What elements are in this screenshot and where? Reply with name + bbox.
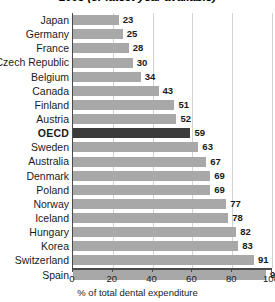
bar-row: Norway77 [0, 197, 275, 211]
bar-row: Hungary82 [0, 225, 275, 239]
bar [73, 199, 226, 209]
bar-row-label: Canada [32, 84, 69, 98]
bar-track: 30 [73, 58, 272, 68]
bar-row-label: Sweden [31, 140, 69, 154]
bar [73, 100, 174, 110]
x-axis-tick-label: 40 [146, 273, 157, 284]
bar-track: 51 [73, 100, 272, 110]
bar [73, 270, 266, 280]
bar-value-label: 78 [228, 212, 243, 224]
bar-row-label: Belgium [31, 70, 69, 84]
bar-row: Korea83 [0, 239, 275, 253]
bar [73, 227, 236, 237]
bar [73, 114, 176, 124]
bar-row: Germany25 [0, 27, 275, 41]
bar [73, 157, 206, 167]
bar-row-label: Czech Republic [0, 55, 69, 69]
bar-row: Austria52 [0, 112, 275, 126]
bar-value-label: 34 [141, 71, 156, 83]
bar-track: 43 [73, 86, 272, 96]
bar-value-label: 77 [226, 198, 241, 210]
bar [73, 43, 129, 53]
bar-value-label: 28 [129, 42, 144, 54]
bar-row: Denmark69 [0, 169, 275, 183]
x-axis-title: % of total dental expenditure [0, 287, 275, 298]
bar-track: 25 [73, 29, 272, 39]
bar-row: Belgium34 [0, 70, 275, 84]
x-axis-tick [112, 268, 113, 272]
bar-row: OECD59 [0, 126, 275, 140]
bar-row: Japan23 [0, 13, 275, 27]
bar [73, 213, 228, 223]
bar-row-label: Germany [26, 27, 69, 41]
bar [73, 72, 141, 82]
bar-track: 78 [73, 213, 272, 223]
bar-track: 52 [73, 114, 272, 124]
bar-track: 59 [73, 128, 272, 138]
bar-track: 69 [73, 185, 272, 195]
x-axis-tick [271, 268, 272, 272]
bar-track: 77 [73, 199, 272, 209]
bar-track: 97 [73, 270, 272, 280]
bar-rows: Japan23Germany25France28Czech Republic30… [0, 13, 275, 268]
bar-row-label: Poland [36, 183, 69, 197]
bar-value-label: 63 [198, 141, 213, 153]
bar-value-label: 25 [123, 28, 138, 40]
bar-row-label: France [36, 41, 69, 55]
bar-row-label: Finland [35, 98, 69, 112]
bar-track: 69 [73, 171, 272, 181]
bar-track: 28 [73, 43, 272, 53]
bar-row-label: Hungary [29, 225, 69, 239]
bar-value-label: 69 [210, 170, 225, 182]
bar-track: 23 [73, 15, 272, 25]
bar-row: Finland51 [0, 98, 275, 112]
x-axis-tick [191, 268, 192, 272]
bar-row-label: Iceland [35, 211, 69, 225]
bar-row-label: Denmark [26, 169, 69, 183]
bar-row: France28 [0, 41, 275, 55]
x-axis-tick-label: 80 [226, 273, 237, 284]
bar-chart: 2005 (or latest year available) Japan23G… [0, 0, 275, 302]
bar-track: 83 [73, 241, 272, 251]
bar-track: 82 [73, 227, 272, 237]
bar-value-label: 91 [254, 254, 269, 266]
bar-row: Canada43 [0, 84, 275, 98]
bar [73, 142, 198, 152]
bar [73, 241, 238, 251]
bar [73, 171, 210, 181]
bar-value-label: 67 [206, 156, 221, 168]
bar-value-label: 43 [159, 85, 174, 97]
bar-value-label: 82 [236, 226, 251, 238]
bar-row-label: Australia [28, 154, 69, 168]
bar [73, 58, 133, 68]
x-axis-tick-label: 100 [263, 273, 275, 284]
bar [73, 255, 254, 265]
bar-row-label: Korea [41, 239, 69, 253]
bar-row-label: Austria [36, 112, 69, 126]
x-axis-tick-label: 0 [69, 273, 74, 284]
bar-row: Czech Republic30 [0, 55, 275, 69]
x-axis-tick [231, 268, 232, 272]
x-axis-tick [152, 268, 153, 272]
bar-value-label: 59 [190, 127, 205, 139]
bar [73, 29, 123, 39]
x-axis-tick [72, 268, 73, 272]
x-axis-tick-label: 60 [186, 273, 197, 284]
bar-row: Poland69 [0, 183, 275, 197]
bar [73, 128, 190, 138]
bar-track: 91 [73, 255, 272, 265]
bar-track: 34 [73, 72, 272, 82]
bar-row-label: OECD [38, 126, 69, 140]
bar-value-label: 69 [210, 184, 225, 196]
bar-row: Sweden63 [0, 140, 275, 154]
bar-track: 63 [73, 142, 272, 152]
chart-title: 2005 (or latest year available) [0, 0, 275, 3]
bar [73, 15, 119, 25]
bar-row-label: Spain [42, 268, 69, 282]
bar-value-label: 30 [133, 57, 148, 69]
bar-value-label: 52 [176, 113, 191, 125]
bar-row-label: Norway [33, 197, 69, 211]
bar-track: 67 [73, 157, 272, 167]
bar [73, 185, 210, 195]
x-axis-line [72, 268, 272, 270]
